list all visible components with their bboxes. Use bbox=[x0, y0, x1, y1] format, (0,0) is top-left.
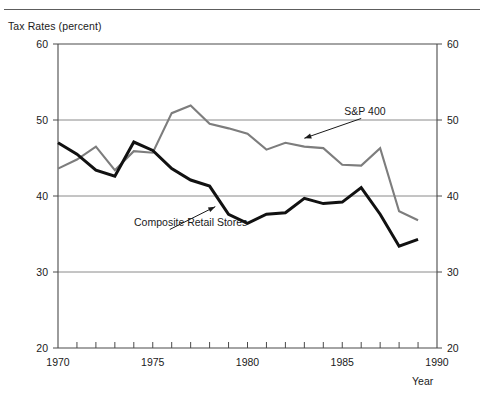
x-axis-tick-label: 1985 bbox=[331, 356, 355, 368]
gridlines-group bbox=[58, 120, 437, 272]
y-axis-tick-label: 20 bbox=[447, 342, 459, 354]
y-axis-tick-label: 50 bbox=[447, 114, 459, 126]
figure-chart: Tax Rates (percent) Year 2030405060 2030… bbox=[0, 0, 484, 401]
y-axis-labels-left: 2030405060 bbox=[36, 38, 48, 354]
y-axis-tick-label: 30 bbox=[36, 266, 48, 278]
y-axis-tick-label: 30 bbox=[447, 266, 459, 278]
annotation-arrow-head bbox=[208, 207, 215, 212]
x-axis-labels: 19701975198019851990 bbox=[46, 356, 449, 368]
series-line bbox=[58, 106, 418, 221]
y-axis-tick-label: 60 bbox=[36, 38, 48, 50]
x-axis-tick-label: 1970 bbox=[46, 356, 70, 368]
x-axis-tick-label: 1990 bbox=[425, 356, 449, 368]
line-chart-plot: 2030405060 2030405060 197019751980198519… bbox=[0, 0, 484, 401]
annotation-arrow-head bbox=[304, 133, 311, 138]
series-annotation-label: S&P 400 bbox=[344, 105, 385, 117]
y-axis-tick-label: 40 bbox=[447, 190, 459, 202]
x-axis-tick-label: 1980 bbox=[236, 356, 260, 368]
annotation-arrow-line bbox=[304, 118, 361, 138]
x-axis-tick-label: 1975 bbox=[141, 356, 165, 368]
x-tick-marks-group bbox=[77, 342, 418, 348]
y-axis-tick-label: 20 bbox=[36, 342, 48, 354]
y-axis-tick-label: 40 bbox=[36, 190, 48, 202]
series-annotation-label: Composite Retail Stores bbox=[134, 216, 247, 228]
y-axis-tick-label: 60 bbox=[447, 38, 459, 50]
series-line bbox=[58, 142, 418, 246]
y-axis-labels-right: 2030405060 bbox=[447, 38, 459, 354]
y-axis-tick-label: 50 bbox=[36, 114, 48, 126]
